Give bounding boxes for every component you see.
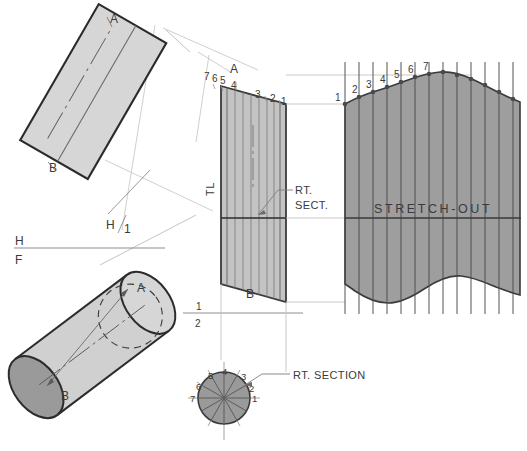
fold-h1-top-label: H <box>106 218 115 232</box>
rt-section-number-1: 1 <box>252 393 257 404</box>
stretch-number-3: 3 <box>366 79 372 90</box>
auxiliary-true-length-view <box>221 86 286 302</box>
stretch-out-development <box>343 62 521 314</box>
front-view-label-b: B <box>61 389 69 403</box>
rt-section-number-3: 3 <box>241 371 246 382</box>
stretch-out-technical-drawing: A B H 1 H F A <box>0 0 527 451</box>
aux-label-b: B <box>246 287 254 301</box>
fold-hf-bottom-label: F <box>15 253 23 267</box>
stretch-out-outline <box>345 72 520 303</box>
rt-section-number-6: 6 <box>196 381 201 392</box>
rt-sect-label-line1: RT. <box>295 184 313 196</box>
aux-number-6: 6 <box>212 73 218 84</box>
aux-true-length-label: TL <box>204 182 216 196</box>
aux-number-2: 2 <box>270 93 276 104</box>
rt-section-number-4: 4 <box>222 366 227 377</box>
front-view-label-a: A <box>137 281 145 295</box>
aux-number-3: 3 <box>255 89 261 100</box>
rt-sect-label-line2: SECT. <box>295 199 328 211</box>
stretch-number-4: 4 <box>380 74 386 85</box>
aux-number-5: 5 <box>220 75 226 86</box>
fold-hf-top-label: H <box>15 234 24 248</box>
aux-number-1: 1 <box>281 96 287 107</box>
rt-section-number-5: 5 <box>208 370 213 381</box>
top-view-label-a: A <box>110 12 118 26</box>
fold-12-top-label: 1 <box>196 301 202 312</box>
rt-section-number-7: 7 <box>190 393 195 404</box>
stretch-number-5: 5 <box>394 69 400 80</box>
aux-number-7: 7 <box>204 71 210 82</box>
rt-section-label: RT. SECTION <box>293 369 366 381</box>
stretch-number-7: 7 <box>423 61 429 72</box>
aux-label-a: A <box>230 62 238 76</box>
fold-h1-bottom-label: 1 <box>124 222 131 236</box>
stretch-number-6: 6 <box>408 64 414 75</box>
stretch-number-1: 1 <box>335 92 341 103</box>
technical-drawing-canvas: A B H 1 H F A <box>0 0 527 451</box>
stretch-out-title: STRETCH-OUT <box>374 202 492 216</box>
aux-view-outline <box>221 86 286 302</box>
fold-12-bottom-label: 2 <box>195 318 201 329</box>
stretch-number-2: 2 <box>352 84 358 95</box>
